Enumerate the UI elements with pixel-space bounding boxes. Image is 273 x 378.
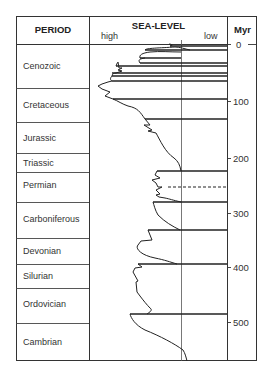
tick-500: 500 — [233, 317, 249, 328]
tick-400: 400 — [233, 262, 249, 273]
myr-ticks — [227, 45, 257, 323]
period-label-permian: Permian — [23, 180, 57, 190]
high-label: high — [101, 31, 118, 41]
sea-level-chart: PERIOD SEA-LEVEL high low Myr Cenozoic C… — [0, 0, 273, 378]
low-label: low — [204, 31, 218, 41]
period-boundaries — [16, 89, 89, 324]
period-label-silurian: Silurian — [23, 271, 53, 281]
tick-200: 200 — [233, 153, 249, 164]
tick-100: 100 — [233, 96, 249, 107]
tick-300: 300 — [233, 208, 249, 219]
period-label-devonian: Devonian — [23, 246, 61, 256]
period-label-cretaceous: Cretaceous — [23, 100, 69, 110]
sequence-boundaries — [112, 46, 227, 314]
period-label-ordovician: Ordovician — [23, 299, 66, 309]
period-label-cambrian: Cambrian — [23, 337, 62, 347]
tick-0: 0 — [236, 39, 241, 50]
period-label-cenozoic: Cenozoic — [23, 61, 61, 71]
period-label-carboniferous: Carboniferous — [23, 214, 80, 224]
myr-header: Myr — [228, 24, 257, 35]
period-label-triassic: Triassic — [23, 158, 54, 168]
sea-level-header: SEA-LEVEL — [90, 20, 227, 31]
period-header: PERIOD — [17, 24, 89, 35]
period-label-jurassic: Jurassic — [23, 133, 56, 143]
